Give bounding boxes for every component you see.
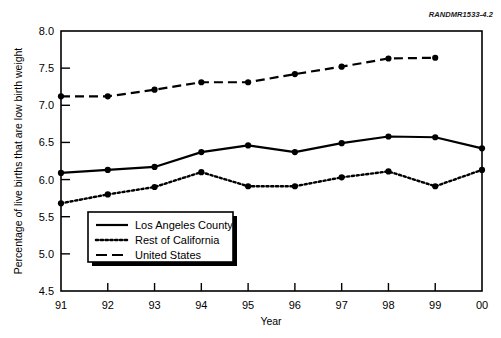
x-tick-label: 99 (429, 299, 441, 311)
data-point-marker (58, 170, 64, 176)
data-point-marker (245, 142, 251, 148)
data-point-marker (292, 149, 298, 155)
y-tick-label: 6.0 (39, 174, 54, 186)
data-point-marker (432, 134, 438, 140)
x-tick-label: 98 (382, 299, 394, 311)
figure-container: RANDMR1533-4.2 4.55.05.56.06.57.07.58.0 … (0, 0, 501, 338)
y-tick-label: 5.5 (39, 211, 54, 223)
data-series-group (58, 55, 485, 207)
y-tick-label: 7.5 (39, 62, 54, 74)
data-point-marker (385, 55, 391, 61)
x-tick-label: 95 (242, 299, 254, 311)
series-line (61, 136, 482, 172)
data-point-marker (432, 183, 438, 189)
y-axis-title: Percentage of live births that are low b… (12, 48, 24, 275)
data-point-marker (151, 184, 157, 190)
y-tick-label: 8.0 (39, 25, 54, 37)
data-point-marker (292, 183, 298, 189)
data-point-marker (151, 164, 157, 170)
x-tick-label: 94 (195, 299, 207, 311)
data-point-marker (198, 149, 204, 155)
legend-item-label: Los Angeles County (135, 219, 233, 231)
y-tick-label: 6.5 (39, 136, 54, 148)
x-tick-label: 91 (55, 299, 67, 311)
data-point-marker (432, 55, 438, 61)
data-point-marker (245, 79, 251, 85)
data-point-marker (339, 174, 345, 180)
data-point-marker (385, 168, 391, 174)
legend-item-label: Rest of California (135, 234, 220, 246)
x-tick-label: 96 (289, 299, 301, 311)
x-axis-title: Year (260, 315, 282, 327)
data-point-marker (479, 167, 485, 173)
y-axis-ticks: 4.55.05.56.06.57.07.58.0 (39, 25, 70, 297)
data-point-marker (292, 71, 298, 77)
data-point-marker (105, 191, 111, 197)
data-point-marker (479, 145, 485, 151)
legend-item-label: United States (135, 249, 202, 261)
data-point-marker (245, 183, 251, 189)
data-point-marker (105, 93, 111, 99)
x-tick-label: 00 (476, 299, 488, 311)
x-tick-label: 93 (148, 299, 160, 311)
y-tick-label: 4.5 (39, 285, 54, 297)
data-point-marker (339, 64, 345, 70)
series-line (61, 58, 435, 97)
data-point-marker (198, 169, 204, 175)
data-point-marker (339, 140, 345, 146)
line-chart: 4.55.05.56.06.57.07.58.0 919293949596979… (0, 0, 501, 338)
y-tick-label: 7.0 (39, 99, 54, 111)
y-tick-label: 5.0 (39, 248, 54, 260)
chart-legend: Los Angeles CountyRest of CaliforniaUnit… (88, 212, 237, 266)
data-point-marker (58, 93, 64, 99)
data-point-marker (198, 79, 204, 85)
x-tick-label: 92 (102, 299, 114, 311)
data-point-marker (151, 87, 157, 93)
data-point-marker (58, 200, 64, 206)
data-point-marker (385, 133, 391, 139)
x-tick-label: 97 (336, 299, 348, 311)
x-axis-ticks: 91929394959697989900 (55, 283, 488, 311)
series-line (61, 170, 482, 203)
data-point-marker (105, 167, 111, 173)
